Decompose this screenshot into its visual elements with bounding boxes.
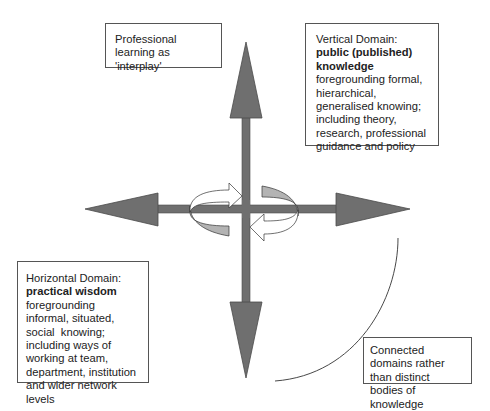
interplay-text: Professional learning as 'interplay': [115, 33, 177, 72]
horizontal-domain-bold: practical wisdom: [26, 285, 117, 297]
right-curl-arrow-icon: [250, 186, 298, 241]
right-arrowhead-icon: [336, 193, 410, 226]
vertical-domain-prefix: Vertical Domain:: [316, 33, 397, 45]
interplay-label-box: Professional learning as 'interplay': [105, 23, 222, 68]
horizontal-domain-prefix: Horizontal Domain:: [26, 272, 121, 284]
down-arrowhead-icon: [230, 302, 262, 378]
vertical-domain-box: Vertical Domain: public (published) know…: [305, 23, 439, 146]
vertical-domain-bold: public (published) knowledge: [316, 46, 412, 71]
left-arrowhead-icon: [85, 193, 158, 226]
up-arrowhead-icon: [230, 42, 262, 118]
horizontal-domain-box: Horizontal Domain: practical wisdom fore…: [17, 261, 149, 383]
connected-domains-box: Connected domains rather than distinct b…: [363, 337, 472, 384]
vertical-domain-body: foregrounding formal, hierarchical, gene…: [316, 73, 426, 152]
